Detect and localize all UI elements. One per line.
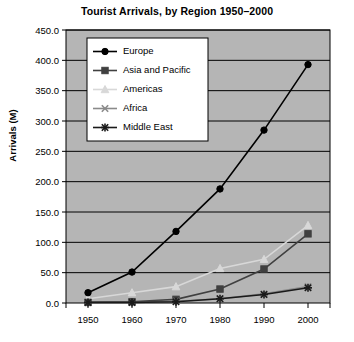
data-point-marker bbox=[261, 127, 267, 133]
data-point-marker bbox=[173, 228, 179, 234]
data-point-marker bbox=[172, 298, 180, 306]
y-tick-label: 400.0 bbox=[35, 55, 59, 66]
x-tick-label: 1960 bbox=[121, 314, 142, 325]
data-point-marker bbox=[260, 291, 268, 299]
x-tick-label: 2000 bbox=[297, 314, 318, 325]
data-point-marker bbox=[217, 186, 223, 192]
data-point-marker bbox=[216, 295, 224, 303]
x-axis: 195019601970198019902000 bbox=[66, 303, 330, 325]
x-tick-label: 1990 bbox=[253, 314, 274, 325]
legend-label: Americas bbox=[123, 83, 163, 94]
chart-plot: 0.050.0100.0150.0200.0250.0300.0350.0400… bbox=[0, 0, 354, 342]
y-tick-label: 0.0 bbox=[46, 298, 59, 309]
data-point-marker bbox=[305, 231, 311, 237]
data-point-marker bbox=[129, 269, 135, 275]
chart-legend: EuropeAsia and PacificAmericasAfricaMidd… bbox=[87, 38, 208, 141]
y-tick-label: 100.0 bbox=[35, 237, 59, 248]
legend-label: Europe bbox=[123, 45, 154, 56]
chart-container: Tourist Arrivals, by Region 1950–2000 Ar… bbox=[0, 0, 354, 342]
data-point-marker bbox=[261, 266, 267, 272]
y-tick-label: 50.0 bbox=[41, 267, 60, 278]
y-tick-label: 200.0 bbox=[35, 176, 59, 187]
y-tick-label: 250.0 bbox=[35, 146, 59, 157]
data-point-marker bbox=[102, 67, 108, 73]
y-tick-label: 350.0 bbox=[35, 85, 59, 96]
data-point-marker bbox=[101, 124, 109, 132]
y-axis: 0.050.0100.0150.0200.0250.0300.0350.0400… bbox=[35, 25, 66, 309]
y-tick-label: 450.0 bbox=[35, 25, 59, 36]
y-tick-label: 300.0 bbox=[35, 116, 59, 127]
data-point-marker bbox=[84, 298, 92, 306]
data-point-marker bbox=[217, 286, 223, 292]
x-tick-label: 1970 bbox=[165, 314, 186, 325]
legend-label: Asia and Pacific bbox=[123, 64, 191, 75]
data-point-marker bbox=[128, 298, 136, 306]
data-point-marker bbox=[85, 289, 91, 295]
y-tick-label: 150.0 bbox=[35, 207, 59, 218]
x-tick-label: 1980 bbox=[209, 314, 230, 325]
legend-label: Middle East bbox=[123, 121, 173, 132]
data-point-marker bbox=[102, 48, 108, 54]
data-point-marker bbox=[304, 284, 312, 292]
x-tick-label: 1950 bbox=[77, 314, 98, 325]
legend-label: Africa bbox=[123, 102, 148, 113]
data-point-marker bbox=[305, 61, 311, 67]
